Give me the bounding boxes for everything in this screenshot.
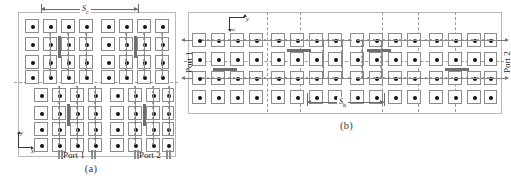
coupling-pin (341, 56, 343, 58)
patch (388, 90, 402, 104)
coupling-pin (161, 54, 163, 56)
coupling-pin (143, 33, 145, 35)
coupling-pin (361, 56, 363, 58)
patch (110, 106, 124, 120)
patch (110, 138, 124, 152)
coupling-pin (461, 39, 463, 41)
patch (25, 55, 39, 69)
coupling-pin (477, 77, 479, 79)
feed-strip (445, 68, 469, 71)
coupling-pin (94, 112, 96, 114)
feed-strip (287, 49, 311, 52)
patch (271, 90, 285, 104)
coupling-pin (228, 77, 230, 79)
coupling-pin (487, 39, 489, 41)
coupling-pin (152, 107, 154, 109)
coupling-pin (380, 40, 382, 42)
coupling-pin (451, 77, 453, 79)
coupling-pin (373, 39, 375, 41)
coupling-pin (58, 128, 60, 130)
coupling-pin (244, 77, 246, 79)
patch (328, 52, 342, 66)
coupling-pin (361, 66, 363, 68)
axis-indicator-a: y x (16, 128, 40, 152)
coupling-pin (296, 77, 298, 79)
coupling-pin (380, 56, 382, 58)
coupling-pin (322, 61, 324, 63)
coupling-pin (94, 128, 96, 130)
coupling-pin (143, 59, 145, 61)
coupling-pin (76, 138, 78, 140)
coupling-pin (202, 39, 204, 41)
coupling-pin (161, 49, 163, 51)
coupling-pin (357, 39, 359, 41)
coupling-pin (306, 77, 308, 79)
coupling-pin (399, 39, 401, 41)
coupling-pin (301, 77, 303, 79)
coupling-pin (361, 40, 363, 42)
coupling-pin (134, 138, 136, 140)
coupling-pin (76, 107, 78, 109)
patch (25, 37, 39, 51)
axis-label-x: x (229, 28, 237, 31)
coupling-pin (348, 39, 350, 41)
coupling-pin (134, 102, 136, 104)
coupling-pin (361, 61, 363, 63)
coupling-pin (482, 39, 484, 41)
coupling-pin (322, 56, 324, 58)
patch (192, 52, 206, 66)
coupling-pin (67, 54, 69, 56)
dimension-sc-label: Sc (80, 4, 91, 15)
coupling-pin (301, 39, 303, 41)
patch (192, 90, 206, 104)
patch (211, 90, 225, 104)
coupling-pin (456, 39, 458, 41)
coupling-pin (168, 102, 170, 104)
coupling-pin (67, 33, 69, 35)
coupling-pin (134, 112, 136, 114)
coupling-pin (125, 75, 127, 77)
patch (407, 52, 421, 66)
coupling-pin (228, 39, 230, 41)
patch (25, 19, 39, 33)
patch (448, 52, 462, 66)
coupling-pin (456, 77, 458, 79)
patch (34, 106, 48, 120)
coupling-pin (306, 39, 308, 41)
caption-b: (b) (182, 120, 511, 131)
coupling-pin (76, 102, 78, 104)
patch (388, 52, 402, 66)
coupling-pin (58, 112, 60, 114)
coupling-pin (332, 39, 334, 41)
coupling-pin (76, 133, 78, 135)
patch (211, 52, 225, 66)
coupling-pin (275, 39, 277, 41)
section-divider (267, 12, 268, 112)
coupling-pin (143, 49, 145, 51)
patch (101, 37, 115, 51)
coupling-pin (430, 39, 432, 41)
patch (429, 52, 443, 66)
coupling-pin (143, 75, 145, 77)
coupling-pin (94, 86, 96, 88)
patch (25, 70, 39, 84)
coupling-pin (152, 138, 154, 140)
patch (162, 138, 174, 152)
coupling-pin (58, 133, 60, 135)
coupling-pin (425, 39, 427, 41)
patch (79, 19, 93, 33)
coupling-pin (49, 75, 51, 77)
coupling-pin (218, 39, 220, 41)
dimension-sh-label: Sh (337, 97, 348, 108)
coupling-pin (125, 59, 127, 61)
coupling-pin (168, 86, 170, 88)
axis-label-y: y (20, 129, 23, 137)
coupling-pin (168, 133, 170, 135)
coupling-pin (125, 54, 127, 56)
patch (155, 19, 169, 33)
patch (101, 19, 115, 33)
patch (137, 19, 151, 33)
patch (467, 52, 481, 66)
coupling-pin (322, 40, 324, 42)
coupling-pin (280, 39, 282, 41)
